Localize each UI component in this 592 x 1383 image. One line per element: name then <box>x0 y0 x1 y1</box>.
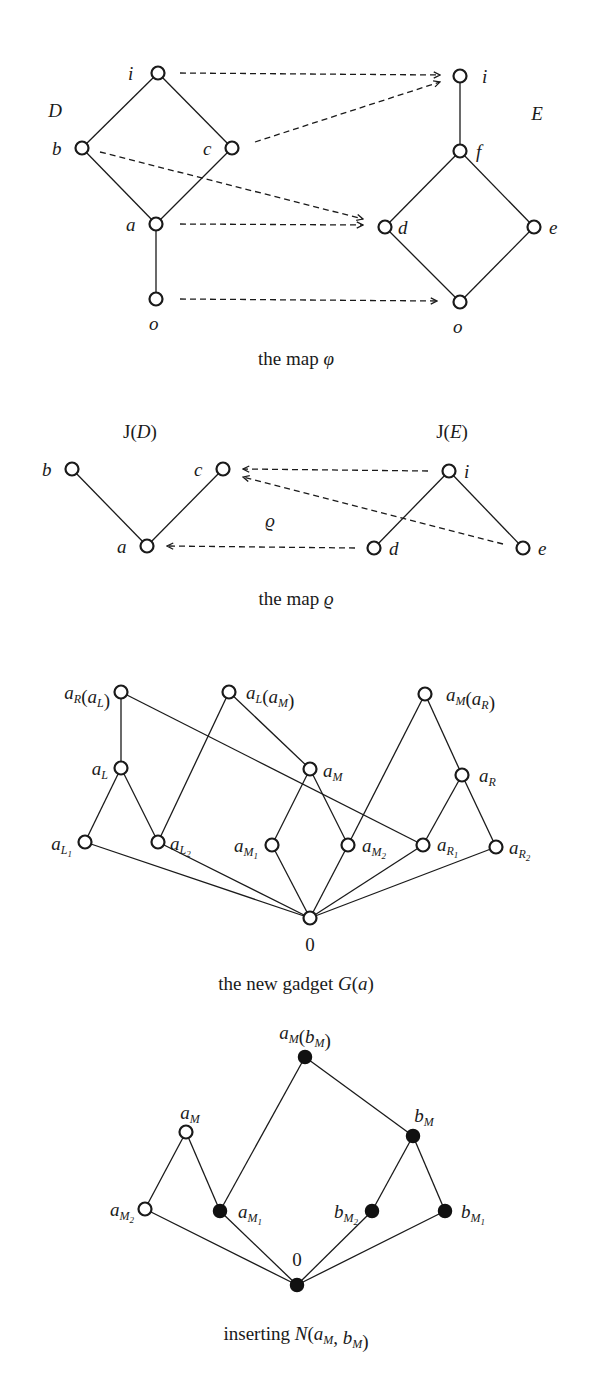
edge <box>158 73 232 148</box>
node-label: aL2 <box>170 833 191 859</box>
open-node <box>417 839 430 852</box>
figure-map-phi: ibcaoifdeoDEthe map φ <box>47 63 557 369</box>
open-node <box>304 912 317 925</box>
node-label: b <box>52 138 62 159</box>
edge <box>385 227 460 302</box>
node-label: bM1 <box>461 1201 485 1227</box>
node-label: c <box>194 459 203 480</box>
node-label: aL1 <box>51 833 72 859</box>
filled-node <box>214 1205 227 1218</box>
node-label: d <box>398 217 408 238</box>
node-label: 0 <box>305 934 315 955</box>
dashed-arrow <box>100 152 363 219</box>
open-node <box>490 841 503 854</box>
node-label: d <box>389 538 399 559</box>
figure-caption: the map ϱ <box>258 588 333 609</box>
open-node <box>454 145 467 158</box>
edge <box>372 1136 413 1211</box>
open-node <box>180 1126 193 1139</box>
edge <box>374 471 449 548</box>
open-node <box>454 70 467 83</box>
open-node <box>419 688 432 701</box>
node-label: aL(aM) <box>246 682 294 712</box>
edge <box>121 768 158 842</box>
node-label: e <box>538 538 546 559</box>
open-node <box>115 686 128 699</box>
figure-caption: the new gadget G(a) <box>218 973 374 995</box>
node-label: aR2 <box>509 837 531 863</box>
edge <box>449 471 523 548</box>
node-label: aR(aL) <box>64 682 110 712</box>
node-label: bM2 <box>334 1201 359 1227</box>
dashed-arrow <box>180 73 440 75</box>
open-node <box>304 763 317 776</box>
node-label: f <box>476 141 484 162</box>
figure-inserting-n: aM(bM)aMbMaM2aM1bM2bM10inserting N(aM, b… <box>110 1022 485 1353</box>
open-node <box>528 221 541 234</box>
node-label: aR <box>479 765 497 789</box>
node-label: a <box>126 214 136 235</box>
node-label: aM1 <box>234 835 258 861</box>
node-label: aM2 <box>110 1199 135 1225</box>
edge <box>72 469 147 546</box>
edge <box>272 769 310 845</box>
edge <box>305 1057 413 1136</box>
node-label: aR1 <box>437 834 458 860</box>
open-node <box>79 836 92 849</box>
figure-new-gadget: aR(aL)aL(aM)aM(aR)aLaMaRaL1aL2aM1aM2aR1a… <box>51 682 531 995</box>
node-label: a <box>117 536 127 557</box>
filled-node <box>291 1279 304 1292</box>
filled-node <box>299 1051 312 1064</box>
edge <box>385 151 460 227</box>
filled-node <box>407 1130 420 1143</box>
node-label: o <box>149 313 159 334</box>
map-symbol-label: ϱ <box>265 510 275 531</box>
open-node <box>76 142 89 155</box>
edge <box>145 1132 186 1209</box>
node-label: e <box>549 217 557 238</box>
node-label: aM <box>323 760 344 784</box>
edge <box>186 1132 220 1211</box>
edge <box>220 1057 305 1211</box>
edge <box>297 1211 372 1285</box>
open-node <box>139 1203 152 1216</box>
node-label: aM(aR) <box>446 684 495 714</box>
node-label: i <box>128 63 133 84</box>
figure-map-rho: bcaideJ(D)J(E)ϱthe map ϱ <box>42 421 546 609</box>
dashed-arrow <box>255 82 440 142</box>
open-node <box>141 540 154 553</box>
edge <box>460 151 534 227</box>
open-node <box>217 463 230 476</box>
edge <box>297 1211 445 1285</box>
open-node <box>223 686 236 699</box>
node-label: i <box>464 461 469 482</box>
open-node <box>342 839 355 852</box>
edge <box>82 73 158 148</box>
node-label: o <box>453 316 463 337</box>
open-node <box>150 293 163 306</box>
edge <box>156 148 232 224</box>
node-label: aM2 <box>362 835 387 861</box>
open-node <box>456 769 469 782</box>
node-label: bM <box>414 1105 435 1129</box>
edge <box>310 845 348 918</box>
open-node <box>266 839 279 852</box>
edge <box>460 227 534 302</box>
edge <box>82 148 156 224</box>
node-label: aM <box>180 1102 201 1126</box>
node-label: aM(bM) <box>279 1022 331 1052</box>
filled-node <box>366 1205 379 1218</box>
group-label: J(E) <box>436 421 468 443</box>
edge <box>158 692 229 842</box>
open-node <box>150 218 163 231</box>
figure-caption: inserting N(aM, bM) <box>223 1323 368 1353</box>
open-node <box>443 465 456 478</box>
open-node <box>454 296 467 309</box>
edge <box>348 694 425 845</box>
filled-node <box>439 1205 452 1218</box>
open-node <box>115 762 128 775</box>
open-node <box>368 542 381 555</box>
dashed-arrow <box>180 299 437 301</box>
figure-caption: the map φ <box>258 348 334 369</box>
node-label: b <box>42 459 52 480</box>
